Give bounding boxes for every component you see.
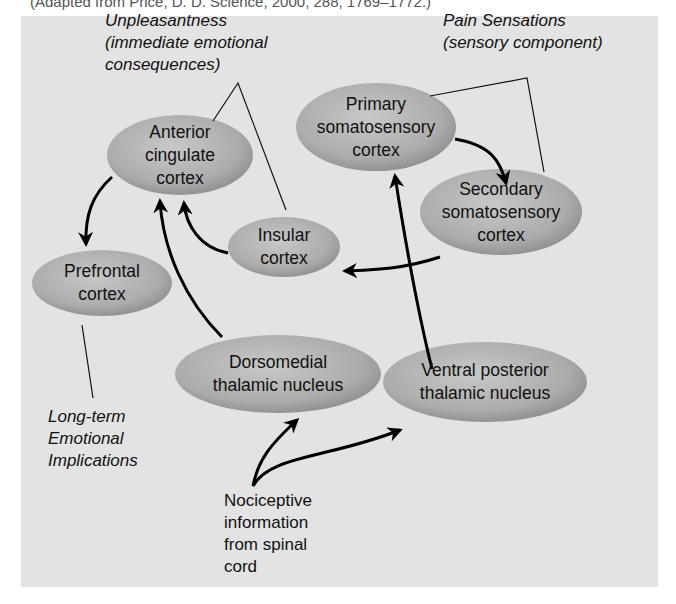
node-line: Primary xyxy=(317,93,436,116)
node-line: Insular xyxy=(258,224,311,247)
node-line: thalamic nucleus xyxy=(213,374,343,397)
node-line: Dorsomedial xyxy=(213,351,343,374)
node-line: cortex xyxy=(317,139,436,162)
annotation-line: Long-term xyxy=(48,406,138,428)
annotation-line: cord xyxy=(224,556,312,578)
node-line: Secondary xyxy=(442,178,561,201)
node-line: somatosensory xyxy=(442,201,561,224)
node-line: cortex xyxy=(258,247,311,270)
annotation-line: Emotional xyxy=(48,428,138,450)
node-line: thalamic nucleus xyxy=(420,382,550,405)
long-term-pointer xyxy=(82,325,93,398)
annotation-line: Pain Sensations xyxy=(443,10,603,32)
node-dorsomedial-thalamic-nucleus: Dorsomedialthalamic nucleus xyxy=(175,335,381,413)
annotation-nociceptive-information: Nociceptive information from spinal cord xyxy=(224,490,312,578)
node-prefrontal-cortex: Prefrontalcortex xyxy=(32,250,172,316)
annotation-line: Implications xyxy=(48,450,138,472)
arrow-secondary-to-insular xyxy=(345,257,440,271)
node-primary-somatosensory-cortex: Primarysomatosensorycortex xyxy=(296,83,456,171)
node-line: Anterior xyxy=(145,121,215,144)
arrow-insular-to-anterior xyxy=(184,203,228,253)
annotation-line: (immediate emotional xyxy=(105,32,268,54)
node-line: Prefrontal xyxy=(64,260,140,283)
arrow-spinal-to-ventral xyxy=(253,430,400,486)
annotation-line: from spinal xyxy=(224,534,312,556)
node-ventral-posterior-thalamic-nucleus: Ventral posteriorthalamic nucleus xyxy=(383,342,587,422)
annotation-line: Nociceptive xyxy=(224,490,312,512)
annotation-unpleasantness: Unpleasantness (immediate emotional cons… xyxy=(105,10,268,76)
annotation-line: (sensory component) xyxy=(443,32,603,54)
node-line: cortex xyxy=(442,224,561,247)
node-line: Ventral posterior xyxy=(420,359,550,382)
annotation-line: information xyxy=(224,512,312,534)
annotation-long-term-emotional-implications: Long-term Emotional Implications xyxy=(48,406,138,472)
annotation-pain-sensations: Pain Sensations (sensory component) xyxy=(443,10,603,54)
node-insular-cortex: Insularcortex xyxy=(228,217,340,277)
node-line: cingulate xyxy=(145,144,215,167)
annotation-line: consequences) xyxy=(105,54,268,76)
node-line: somatosensory xyxy=(317,116,436,139)
node-line: cortex xyxy=(64,283,140,306)
node-line: cortex xyxy=(145,167,215,190)
node-secondary-somatosensory-cortex: Secondarysomatosensorycortex xyxy=(420,169,582,255)
annotation-line: Unpleasantness xyxy=(105,10,268,32)
node-anterior-cingulate-cortex: Anteriorcingulatecortex xyxy=(107,115,253,195)
